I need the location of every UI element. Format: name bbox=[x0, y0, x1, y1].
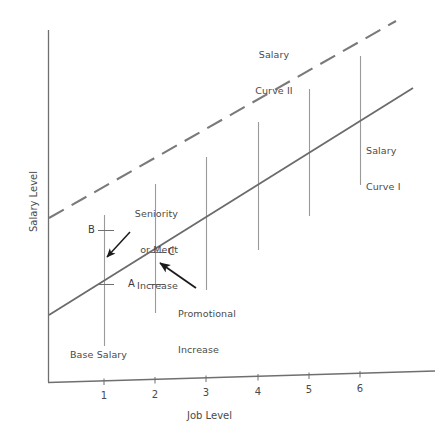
salary-curve-two-line bbox=[49, 21, 396, 218]
x-tick-label-5: 5 bbox=[300, 384, 318, 395]
x-axis-title: Job Level bbox=[187, 410, 232, 421]
x-tick-label-3: 3 bbox=[197, 387, 215, 398]
x-tick-label-2: 2 bbox=[146, 389, 164, 400]
x-tick-label-1: 1 bbox=[95, 390, 113, 401]
salary-curve-two-label: Salary Curve II bbox=[243, 25, 305, 121]
salary-curve-two-label-line1: Salary bbox=[243, 49, 305, 61]
promotional-label-line1: Promotional bbox=[178, 308, 256, 320]
promotional-label-line2: Increase bbox=[178, 344, 256, 356]
salary-curve-one-label: Salary Curve I bbox=[366, 121, 428, 217]
salary-curve-chart: Salary Level Job Level 1 2 3 4 5 6 Salar… bbox=[0, 0, 439, 433]
salary-curve-two-label-line2: Curve II bbox=[243, 85, 305, 97]
seniority-label-line3: Increase bbox=[108, 280, 178, 292]
seniority-label-line1: Seniority bbox=[108, 208, 178, 220]
salary-curve-one-line bbox=[49, 88, 413, 315]
point-a-label: A bbox=[128, 278, 135, 289]
x-tick-label-4: 4 bbox=[249, 386, 267, 397]
point-b-label: B bbox=[88, 224, 95, 235]
base-salary-label: Base Salary bbox=[70, 349, 127, 361]
x-tick-label-6: 6 bbox=[351, 383, 369, 394]
point-c-label: C bbox=[168, 246, 175, 257]
y-axis-title: Salary Level bbox=[28, 171, 39, 232]
salary-curve-one-label-line2: Curve I bbox=[366, 181, 428, 193]
promotional-increase-label: Promotional Increase bbox=[178, 284, 256, 380]
salary-curve-one-label-line1: Salary bbox=[366, 145, 428, 157]
